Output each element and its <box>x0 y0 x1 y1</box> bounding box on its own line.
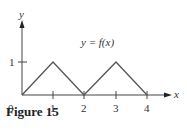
function-curve <box>22 62 147 95</box>
y-tick-label-1: 1 <box>9 56 15 68</box>
x-tick-label-2: 2 <box>81 102 87 114</box>
x-tick-label-4: 4 <box>144 102 150 114</box>
y-axis-label: y <box>18 8 24 20</box>
y-axis-arrow-icon <box>20 20 25 28</box>
x-axis-label: x <box>173 88 179 100</box>
figure-caption: Figure 15 <box>6 104 59 120</box>
function-label: y = f(x) <box>80 36 114 49</box>
x-tick-label-3: 3 <box>113 102 119 114</box>
x-axis-arrow-icon <box>164 93 172 98</box>
